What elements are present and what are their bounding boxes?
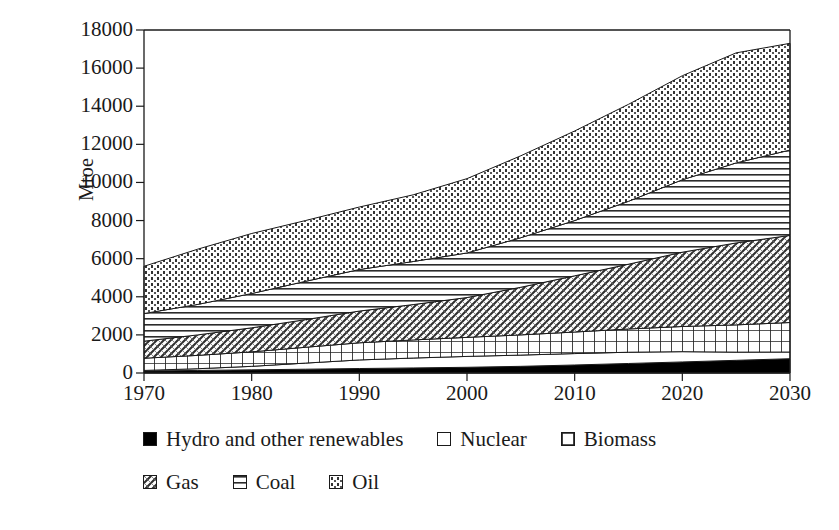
y-tick-label: 0: [123, 362, 134, 383]
legend-item-nuclear[interactable]: Nuclear: [437, 428, 526, 450]
legend-swatch-dotted-fine-icon: [329, 475, 343, 489]
x-axis-tick-labels: 1970198019902000201020202030: [0, 381, 839, 411]
x-tick-label: 2000: [427, 381, 507, 405]
legend-row: GasCoalOil: [0, 471, 839, 493]
legend-label: Hydro and other renewables: [166, 428, 403, 450]
y-tick-label: 16000: [81, 57, 134, 78]
legend-item-coal[interactable]: Coal: [233, 471, 296, 493]
x-tick-label: 2010: [535, 381, 615, 405]
x-tick-label: 2030: [750, 381, 830, 405]
legend-label: Coal: [256, 471, 296, 493]
y-axis-title: Mtoe: [75, 120, 98, 240]
y-tick-label: 18000: [81, 19, 134, 40]
legend-label: Nuclear: [460, 428, 526, 450]
y-tick-label: 14000: [81, 95, 134, 116]
stacked-band-layer: [144, 43, 790, 373]
chart-legend: Hydro and other renewablesNuclearBiomass…: [0, 428, 839, 528]
legend-swatch-horizontal-lines-icon: [233, 475, 247, 489]
legend-row: Hydro and other renewablesNuclearBiomass: [0, 428, 839, 450]
chart-plot-region: 0200040006000800010000120001400016000180…: [0, 0, 839, 415]
legend-item-hydro-and-other-renewables[interactable]: Hydro and other renewables: [143, 428, 403, 450]
y-axis-tick-labels: 0200040006000800010000120001400016000180…: [0, 0, 133, 400]
legend-item-oil[interactable]: Oil: [329, 471, 379, 493]
y-tick-label: 6000: [91, 248, 133, 269]
legend-item-gas[interactable]: Gas: [143, 471, 199, 493]
legend-label: Biomass: [584, 428, 656, 450]
x-tick-label: 1980: [212, 381, 292, 405]
x-tick-label: 1990: [319, 381, 399, 405]
legend-swatch-grid-icon: [561, 432, 575, 446]
x-tick-label: 1970: [104, 381, 184, 405]
y-tick-label: 2000: [91, 324, 133, 345]
legend-item-biomass[interactable]: Biomass: [561, 428, 656, 450]
legend-swatch-empty-white-icon: [437, 432, 451, 446]
legend-swatch-solid-black-icon: [143, 432, 157, 446]
legend-label: Oil: [352, 471, 379, 493]
y-tick-label: 4000: [91, 286, 133, 307]
stacked-area-chart-figure: 0200040006000800010000120001400016000180…: [0, 0, 839, 530]
legend-label: Gas: [166, 471, 199, 493]
legend-swatch-diagonal-crosshatch-icon: [143, 475, 157, 489]
x-tick-label: 2020: [642, 381, 722, 405]
